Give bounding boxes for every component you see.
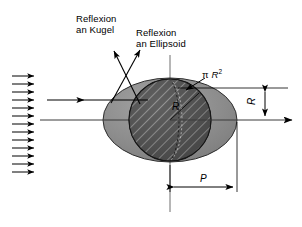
cross-section-exponent: 2 [218, 68, 222, 75]
diagram-canvas: Reflexion an Kugel Reflexion an Ellipsoi… [0, 0, 302, 227]
label-reflexion-kugel-line1: Reflexion [76, 13, 117, 24]
label-reflexion-ellipsoid: Reflexion an Ellipsoid [136, 27, 186, 49]
pi-symbol: π [202, 69, 209, 80]
label-distance-dimension: P [200, 173, 207, 184]
incident-radiation-beam [12, 76, 34, 172]
label-cross-section-area: π R2 [202, 66, 222, 80]
label-reflexion-ellipsoid-line1: Reflexion [136, 27, 186, 38]
label-reflexion-ellipsoid-line2: an Ellipsoid [136, 38, 186, 49]
label-radius-dimension: R [246, 98, 257, 105]
label-reflexion-kugel: Reflexion an Kugel [76, 13, 117, 35]
label-reflexion-kugel-line2: an Kugel [76, 24, 117, 35]
label-radius-inner: R [172, 101, 179, 112]
